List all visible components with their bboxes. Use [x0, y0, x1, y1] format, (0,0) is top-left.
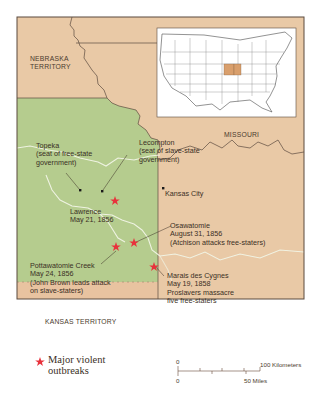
violence-star-icon — [35, 357, 45, 366]
osawatomie-label: Osawatomie August 31, 1856 (Atchison att… — [170, 222, 265, 247]
lecompton-dot — [101, 190, 103, 192]
marais-des-cygnes-label: Marais des Cygnes May 19, 1858 Proslaver… — [167, 272, 234, 306]
nebraska-territory-label: NEBRASKA TERRITORY — [30, 55, 71, 71]
topeka-dot — [79, 189, 81, 191]
kansas-highlight — [224, 64, 234, 75]
pottawatomie-label: Pottawatomie Creek May 24, 1856 (John Br… — [30, 262, 111, 296]
us-inset-map — [157, 28, 296, 117]
kansas-territory-area — [17, 98, 160, 282]
kansas-territory-label: KANSAS TERRITORY — [45, 318, 117, 326]
lecompton-label: Lecompton (seat of slave-state governmen… — [139, 139, 200, 164]
scale-km-label: 100 Kilometers — [260, 361, 301, 368]
scale-zero-km: 0 — [176, 358, 179, 365]
legend-label: Major violent outbreaks — [48, 355, 105, 376]
scale-bar — [178, 366, 260, 376]
topeka-label: Topeka (seat of free-state government) — [36, 142, 92, 167]
missouri-label: MISSOURI — [224, 131, 259, 139]
kansas-city-label: Kansas City — [165, 190, 203, 198]
lawrence-label: Lawrence May 21, 1856 — [70, 208, 114, 225]
scale-zero-mi: 0 — [176, 377, 179, 384]
scale-mi-label: 50 Miles — [244, 377, 267, 384]
